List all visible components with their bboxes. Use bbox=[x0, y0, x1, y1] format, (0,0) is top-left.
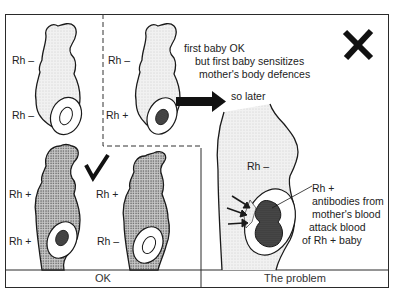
figure-sensitize-mother bbox=[135, 24, 182, 139]
problem-explanation-line4: of Rh + baby bbox=[302, 234, 362, 247]
problem-explanation-line1: antibodies from bbox=[312, 195, 384, 208]
mother-label-3: Rh + bbox=[96, 188, 118, 200]
problem-explanation-line2: mother's blood bbox=[312, 208, 381, 221]
problem-explanation-line3: attack blood bbox=[309, 221, 366, 234]
sensitize-baby-label: Rh + bbox=[106, 109, 128, 121]
baby-label-3: Rh – bbox=[97, 235, 119, 247]
caption-problem: The problem bbox=[201, 272, 389, 284]
figure-problem-mother bbox=[217, 104, 312, 270]
sensitize-note-line1: first baby OK bbox=[184, 42, 245, 55]
figure-rh-pos-mother-rh-pos-baby bbox=[35, 145, 82, 271]
figure-rh-pos-mother-rh-neg-baby bbox=[123, 152, 169, 270]
sensitize-note-line3: mother's body defences bbox=[199, 68, 310, 81]
baby-label-1: Rh – bbox=[12, 109, 34, 121]
x-mark-icon bbox=[345, 31, 371, 58]
sensitize-note-line2: but first baby sensitizes bbox=[195, 55, 304, 68]
problem-baby-label: Rh + bbox=[312, 182, 334, 195]
figure-rh-neg-mother-rh-neg-baby bbox=[35, 24, 86, 139]
so-later-arrow-icon bbox=[176, 91, 226, 112]
so-later-label: so later bbox=[231, 90, 265, 103]
check-mark-icon bbox=[86, 155, 108, 178]
mother-label-2: Rh + bbox=[9, 188, 31, 200]
sensitize-mother-label: Rh – bbox=[108, 54, 130, 66]
mother-label-1: Rh – bbox=[12, 54, 34, 66]
caption-ok: OK bbox=[5, 272, 201, 284]
problem-mother-label: Rh – bbox=[247, 160, 269, 172]
baby-label-2: Rh + bbox=[9, 235, 31, 247]
